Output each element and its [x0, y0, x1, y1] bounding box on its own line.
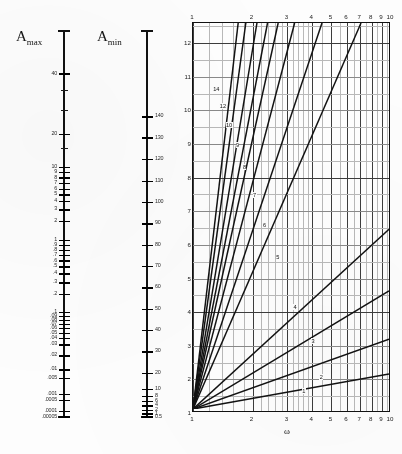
scale-tick-label: .4 [53, 270, 57, 275]
x-tick-label: 2 [245, 415, 259, 422]
nomogram-page: 402010987654321.9.8.7.6.5.4.3.2.1.09.08.… [0, 0, 402, 454]
x-tick-label: 3 [279, 415, 293, 422]
x-tick-label: 1 [185, 13, 199, 20]
scale-tick [142, 202, 153, 203]
scale-tick-label: 140 [155, 113, 163, 118]
scale-tick-label: 20 [51, 131, 57, 136]
y-tick-label: 10 [182, 106, 191, 113]
scale-tick [61, 148, 68, 149]
filter-order-chart: 123456789101214 12345678910 12345678910 … [192, 22, 390, 412]
scale-tick-label: .02 [50, 352, 57, 357]
y-tick-label: 3 [182, 342, 191, 349]
scale-tick-label: 80 [155, 242, 161, 247]
scale-tick-label: 70 [155, 263, 161, 268]
order-curve-label: 4 [293, 304, 297, 310]
scale-tick [59, 333, 70, 334]
amax-cap-top [58, 30, 70, 32]
scale-tick-label: .005 [47, 375, 57, 380]
scale-tick-label: .2 [53, 291, 57, 296]
y-tick-label: 4 [182, 308, 191, 315]
scale-tick [59, 355, 70, 356]
scale-tick-label: 10 [155, 386, 161, 391]
scale-tick [142, 223, 153, 224]
scale-tick [59, 316, 70, 317]
scale-tick [61, 110, 68, 111]
scale-tick [142, 330, 153, 331]
scale-tick [142, 416, 153, 417]
amin-cap-top [141, 30, 153, 32]
scale-tick [142, 401, 153, 402]
scale-tick-label: 20 [155, 370, 161, 375]
scale-tick [142, 396, 153, 397]
x-tick-label: 6 [339, 415, 353, 422]
scale-tick-label: 30 [155, 348, 161, 353]
scale-tick-label: .01 [50, 366, 57, 371]
y-tick-label: 8 [182, 174, 191, 181]
scale-tick [59, 338, 70, 339]
y-tick-label: 5 [182, 275, 191, 282]
y-tick-label: 7 [182, 207, 191, 214]
x-tick-label: 6 [339, 13, 353, 20]
scale-tick [59, 344, 70, 345]
scale-tick [59, 266, 70, 267]
scale-tick-label: .03 [50, 341, 57, 346]
scale-tick [142, 116, 153, 117]
scale-tick [142, 287, 153, 288]
scale-tick [59, 194, 70, 195]
scale-tick-label: 90 [155, 220, 161, 225]
scale-tick-label: .0005 [45, 397, 58, 402]
scale-tick [59, 201, 70, 202]
order-curve-label: 12 [219, 103, 226, 109]
scale-tick [142, 159, 153, 160]
scale-tick [59, 209, 70, 210]
scale-tick [59, 240, 70, 241]
scale-tick [59, 245, 70, 246]
scale-tick [59, 294, 70, 295]
order-curve-label: 5 [276, 254, 280, 260]
scale-tick [59, 189, 70, 190]
order-curve-label: 1 [302, 388, 306, 394]
scale-tick [59, 273, 70, 274]
y-tick-label: 12 [182, 39, 191, 46]
order-curve-label: 10 [226, 122, 233, 128]
scale-tick [59, 172, 70, 173]
scale-tick [142, 181, 153, 182]
scale-tick [142, 413, 153, 414]
scale-tick [59, 312, 70, 313]
order-curve-label: 8 [243, 164, 247, 170]
scale-tick-label: 5 [54, 191, 57, 196]
x-tick-label: 5 [323, 13, 337, 20]
x-tick-label: 10 [383, 415, 397, 422]
scale-tick [59, 328, 70, 329]
scale-tick-label: .5 [53, 263, 57, 268]
scale-tick [59, 416, 70, 417]
order-curve [193, 23, 238, 409]
scale-tick [59, 282, 70, 283]
scale-tick [59, 167, 70, 168]
scale-tick-label: 120 [155, 156, 163, 161]
y-tick-label: 9 [182, 140, 191, 147]
x-tick-label: 4 [304, 415, 318, 422]
scale-tick [59, 324, 70, 325]
order-curve [193, 23, 361, 409]
order-curve-label: 3 [311, 338, 315, 344]
scale-tick [59, 73, 70, 74]
scale-tick-label: 110 [155, 178, 163, 183]
order-curve [193, 23, 246, 409]
scale-tick-label: 2 [54, 218, 57, 223]
scale-tick [59, 134, 70, 135]
scale-tick-label: 3 [54, 206, 57, 211]
order-curve [193, 23, 322, 409]
scale-tick [142, 410, 153, 411]
scale-tick-label: 50 [155, 306, 161, 311]
amax-scale: 402010987654321.9.8.7.6.5.4.3.2.1.09.08.… [63, 30, 65, 418]
scale-tick [61, 90, 68, 91]
x-tick-label: 10 [383, 13, 397, 20]
y-tick-label: 6 [182, 241, 191, 248]
scale-tick-label: 100 [155, 199, 163, 204]
scale-tick [142, 137, 153, 138]
scale-tick-label: 40 [155, 327, 161, 332]
y-tick-label: 11 [182, 73, 191, 80]
scale-tick [59, 378, 70, 379]
scale-tick-label: 40 [51, 71, 57, 76]
